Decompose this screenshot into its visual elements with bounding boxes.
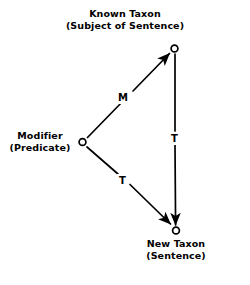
node-label-modifier: Modifier (Predicate) — [0, 130, 80, 154]
edge-label-known-taxon-to-new-taxon: T — [169, 132, 180, 145]
diagram-canvas: Known Taxon (Subject of Sentence) Modifi… — [0, 0, 250, 285]
edge-label-modifier-to-known-taxon: M — [116, 91, 130, 104]
node-label-known-taxon-line1: Known Taxon — [89, 8, 161, 19]
node-label-known-taxon: Known Taxon (Subject of Sentence) — [0, 8, 250, 32]
node-label-new-taxon: New Taxon (Sentence) — [96, 238, 250, 262]
node-label-modifier-line1: Modifier — [17, 130, 62, 141]
edge-label-modifier-to-new-taxon: T — [117, 174, 128, 187]
node-label-new-taxon-line2: (Sentence) — [96, 250, 250, 262]
node-label-new-taxon-line1: New Taxon — [147, 238, 205, 249]
node-marker-new-taxon — [173, 227, 180, 234]
node-label-modifier-line2: (Predicate) — [0, 142, 80, 154]
node-marker-known-taxon — [171, 45, 178, 52]
node-label-known-taxon-line2: (Subject of Sentence) — [0, 20, 250, 32]
node-marker-modifier — [79, 139, 86, 146]
edge-modifier-to-new-taxon — [87, 147, 171, 224]
